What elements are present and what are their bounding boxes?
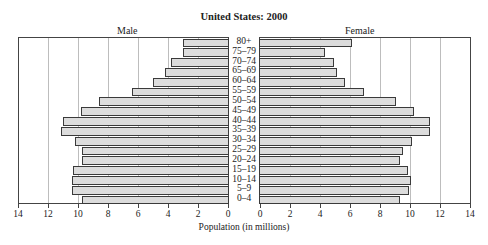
female-bar [259, 147, 403, 156]
male-axis-tick-label: 10 [68, 209, 88, 219]
female-bar [259, 196, 400, 205]
female-axis-tick [410, 204, 411, 208]
male-bar [72, 186, 230, 195]
male-axis-tick [138, 204, 139, 208]
male-bar [183, 48, 230, 57]
female-axis-tick-label: 2 [280, 209, 300, 219]
male-bar [75, 137, 230, 146]
female-bar [259, 78, 345, 87]
male-axis-tick-label: 14 [8, 209, 28, 219]
male-axis-tick-label: 4 [158, 209, 178, 219]
female-axis-tick [350, 204, 351, 208]
female-bar [259, 39, 352, 48]
male-bar [72, 176, 230, 185]
female-axis-tick-label: 14 [460, 209, 480, 219]
female-axis-tick [440, 204, 441, 208]
male-panel-label: Male [117, 25, 138, 36]
male-axis-tick-label: 0 [218, 209, 238, 219]
male-axis-tick [168, 204, 169, 208]
male-bar [81, 107, 230, 116]
female-bar [259, 156, 400, 165]
male-bar [82, 147, 229, 156]
female-bar [259, 107, 414, 116]
female-bar [259, 166, 408, 175]
male-axis-tick [48, 204, 49, 208]
female-axis-tick [290, 204, 291, 208]
male-axis-tick-label: 8 [98, 209, 118, 219]
female-axis-tick-label: 10 [400, 209, 420, 219]
male-axis-tick-label: 2 [188, 209, 208, 219]
male-bar [61, 127, 229, 136]
male-bar [165, 68, 230, 77]
female-bar [259, 88, 364, 97]
male-bar [73, 166, 229, 175]
gridline [440, 38, 441, 203]
male-bar [99, 97, 230, 106]
female-bar [259, 97, 396, 106]
female-panel-label: Female [345, 25, 374, 36]
female-bar [259, 58, 334, 67]
female-panel [259, 37, 471, 204]
female-axis-tick [380, 204, 381, 208]
female-bar [259, 117, 430, 126]
male-axis-tick [228, 204, 229, 208]
female-bar [259, 186, 409, 195]
male-axis-tick [108, 204, 109, 208]
male-bar [171, 58, 230, 67]
male-bar [82, 156, 229, 165]
female-bar [259, 127, 430, 136]
female-bar [259, 68, 337, 77]
male-bar [63, 117, 230, 126]
male-axis-tick [198, 204, 199, 208]
male-axis-tick [78, 204, 79, 208]
age-group-label: 0–4 [228, 194, 260, 204]
chart-title: United States: 2000 [0, 11, 488, 22]
female-axis-tick-label: 4 [310, 209, 330, 219]
female-axis-tick [320, 204, 321, 208]
male-bar [153, 78, 230, 87]
female-axis-tick-label: 6 [340, 209, 360, 219]
female-bar [259, 137, 412, 146]
male-axis-tick-label: 12 [38, 209, 58, 219]
female-axis-tick-label: 12 [430, 209, 450, 219]
male-axis-tick [18, 204, 19, 208]
male-bar [132, 88, 230, 97]
gridline [48, 38, 49, 203]
female-axis-tick-label: 0 [250, 209, 270, 219]
female-bar [259, 48, 325, 57]
male-bar [183, 39, 230, 48]
male-bar [82, 196, 229, 205]
male-axis-tick-label: 6 [128, 209, 148, 219]
female-axis-tick [470, 204, 471, 208]
female-axis-tick [260, 204, 261, 208]
x-axis-label: Population (in millions) [0, 222, 488, 232]
female-bar [259, 176, 411, 185]
male-panel [18, 37, 229, 204]
female-axis-tick-label: 8 [370, 209, 390, 219]
